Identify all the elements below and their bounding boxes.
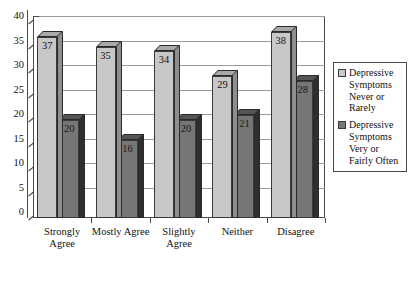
bar-side-face [116,41,122,219]
bar-side-face [254,109,260,218]
y-axis-tick-label: 5 [2,183,24,194]
legend-swatch-icon [338,121,346,129]
bar-side-face [313,75,319,218]
chart-legend: Depressive Symptoms Never or Rarely Depr… [333,62,407,172]
legend-item: Depressive Symptoms Never or Rarely [338,67,403,114]
x-axis-category-label: Mostly Agree [87,226,153,238]
y-axis-tick-label: 35 [2,36,24,47]
bar-front-face [154,51,174,218]
y-axis-tick-label: 0 [2,207,24,218]
y-axis-tick-label: 40 [2,11,24,22]
bar-chart: 0510152025303540 37203516342029213828 St… [0,0,411,282]
bar-front-face [271,32,291,218]
x-axis-tick-mark [267,218,268,223]
x-axis-tick-mark [91,218,92,223]
legend-swatch-icon [338,69,346,77]
y-axis-tick-label: 15 [2,134,24,145]
bar-value-label: 29 [212,80,232,91]
bar-side-face [196,114,202,218]
y-axis-tick-label: 30 [2,60,24,71]
x-axis-category-label: StronglyAgree [29,226,95,250]
x-axis-category-label: Disagree [263,226,329,238]
x-axis-tick-mark [208,218,209,223]
y-axis-line [27,10,28,218]
bar-side-face [291,26,297,218]
bar-side-face [79,114,85,218]
bar: 35 [96,41,116,219]
y-axis-tick-label: 25 [2,85,24,96]
x-axis-tick-mark [325,218,326,223]
bar-value-label: 35 [96,51,116,62]
bar-side-face [232,70,238,218]
legend-item: Depressive Symptoms Very or Fairly Often [338,119,403,166]
bar: 37 [37,31,57,218]
bar-side-face [174,45,180,218]
x-axis-category-label: SlightlyAgree [146,226,212,250]
bar-side-face [138,134,144,218]
bar: 38 [271,26,291,218]
bar-front-face [96,47,116,219]
bar-front-face [37,37,57,218]
bar-value-label: 34 [154,55,174,66]
y-axis-tick-label: 20 [2,109,24,120]
bar-front-face [212,76,232,218]
legend-item-label: Depressive Symptoms Very or Fairly Often [349,119,403,166]
legend-item-label: Depressive Symptoms Never or Rarely [349,67,403,114]
x-axis-category-label: Neither [204,226,270,238]
x-axis-tick-mark [150,218,151,223]
bar-side-face [57,31,63,218]
bar-value-label: 38 [271,36,291,47]
gridline [39,16,325,17]
bar: 34 [154,45,174,218]
bar: 29 [212,70,232,218]
y-axis-tick-label: 10 [2,158,24,169]
bar-value-label: 37 [37,41,57,52]
